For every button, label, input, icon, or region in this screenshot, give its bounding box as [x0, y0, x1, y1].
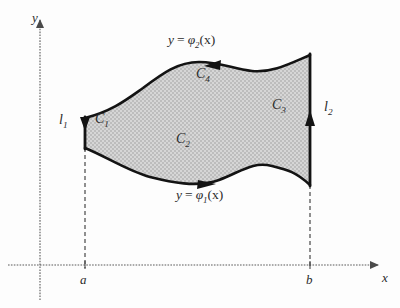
lower-curve-equation-label: y=φ1(x) [176, 187, 223, 203]
c4-base: C [196, 66, 205, 81]
lower-eq-y: y [176, 187, 182, 202]
c3-subscript: 3 [281, 105, 286, 115]
l1-subscript: 1 [63, 120, 68, 130]
segment-label-c1: C1 [95, 111, 109, 127]
tick-label-b: b [306, 272, 313, 288]
upper-eq-equals: = [177, 32, 185, 47]
l2-subscript: 2 [328, 107, 333, 117]
segment-label-l1: l1 [59, 112, 68, 128]
c2-base: C [176, 131, 185, 146]
figure-container: y=φ2(x) y=φ1(x) C1 C2 C3 C4 l1 l2 a b y … [0, 0, 400, 308]
segment-label-c3: C3 [272, 97, 286, 113]
tick-label-a: a [80, 272, 87, 288]
upper-eq-arg: (x) [200, 32, 216, 47]
lower-eq-equals: = [185, 187, 193, 202]
upper-eq-phi: φ [188, 32, 195, 47]
upper-eq-y: y [168, 32, 174, 47]
c2-subscript: 2 [185, 139, 190, 149]
lower-eq-phi: φ [196, 187, 203, 202]
c1-subscript: 1 [104, 119, 109, 129]
c4-subscript: 4 [205, 74, 210, 84]
x-axis-label: x [382, 270, 388, 286]
lower-eq-arg: (x) [208, 187, 224, 202]
c3-base: C [272, 97, 281, 112]
c1-base: C [95, 111, 104, 126]
segment-label-l2: l2 [324, 99, 333, 115]
upper-curve-equation-label: y=φ2(x) [168, 32, 215, 48]
y-axis-label: y [32, 10, 38, 26]
segment-label-c4: C4 [196, 66, 210, 82]
segment-label-c2: C2 [176, 131, 190, 147]
